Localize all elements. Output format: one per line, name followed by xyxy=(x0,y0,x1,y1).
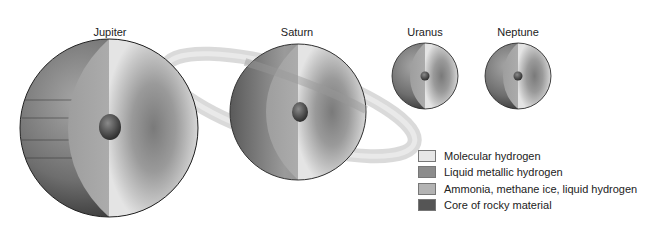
legend-item: Liquid metallic hydrogen xyxy=(418,164,637,180)
legend-swatch-rocky-core xyxy=(418,199,436,211)
legend-swatch-molecular-hydrogen xyxy=(418,150,436,162)
giant-planets-diagram: Jupiter Saturn Uranus Neptune Molecular … xyxy=(0,0,652,234)
planet-uranus xyxy=(392,43,458,109)
legend-swatch-liquid-metallic-hydrogen xyxy=(418,166,436,178)
label-saturn: Saturn xyxy=(281,26,313,38)
legend-label: Liquid metallic hydrogen xyxy=(444,166,563,178)
legend-item: Ammonia, methane ice, liquid hydrogen xyxy=(418,181,637,197)
planet-jupiter xyxy=(20,39,198,217)
planet-saturn xyxy=(230,44,366,180)
legend-label: Ammonia, methane ice, liquid hydrogen xyxy=(444,183,637,195)
legend-label: Core of rocky material xyxy=(444,199,552,211)
legend-swatch-ammonia-methane-ice xyxy=(418,183,436,195)
label-jupiter: Jupiter xyxy=(93,26,126,38)
legend-label: Molecular hydrogen xyxy=(444,150,541,162)
label-uranus: Uranus xyxy=(407,26,442,38)
legend: Molecular hydrogen Liquid metallic hydro… xyxy=(418,148,637,213)
label-neptune: Neptune xyxy=(497,26,539,38)
legend-item: Core of rocky material xyxy=(418,197,637,213)
legend-item: Molecular hydrogen xyxy=(418,148,637,164)
planet-neptune xyxy=(485,43,551,109)
